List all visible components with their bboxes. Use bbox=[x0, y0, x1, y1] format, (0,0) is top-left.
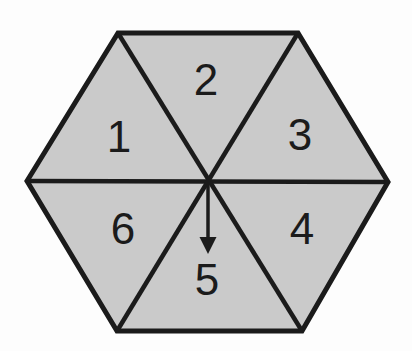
figure-canvas: 1 2 3 4 5 6 bbox=[0, 0, 412, 351]
sector-1-label: 1 bbox=[107, 112, 131, 161]
sector-5-label: 5 bbox=[195, 255, 219, 304]
sector-3-label: 3 bbox=[288, 110, 312, 159]
sector-6-label: 6 bbox=[111, 204, 135, 253]
sector-2-label: 2 bbox=[194, 55, 218, 104]
hexagon-sector-diagram: 1 2 3 4 5 6 bbox=[0, 0, 412, 351]
sector-4-label: 4 bbox=[290, 204, 314, 253]
